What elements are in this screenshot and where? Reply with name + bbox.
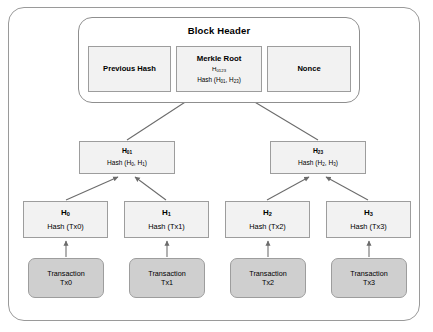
h2-hash-id: H2 <box>263 208 272 218</box>
tx3-label: Transaction <box>350 269 387 278</box>
nonce-label: Nonce <box>297 64 320 73</box>
h0-formula: Hash (Tx0) <box>47 222 84 231</box>
h23-formula: Hash (H2, H3) <box>298 159 338 168</box>
tx2-id: Tx2 <box>262 278 274 287</box>
merkle-root-hash-id: H0123 <box>212 65 226 74</box>
h01-formula: Hash (H0, H1) <box>107 159 147 168</box>
hash-node-h1: H1 Hash (Tx1) <box>124 201 209 238</box>
h2-formula: Hash (Tx2) <box>249 222 286 231</box>
hash-node-h0: H0 Hash (Tx0) <box>23 201 108 238</box>
nonce-box: Nonce <box>267 46 351 92</box>
hash-node-h01: H01 Hash (H0, H1) <box>79 141 175 174</box>
h3-hash-id: H3 <box>364 208 373 218</box>
h1-hash-id: H1 <box>162 208 171 218</box>
hash-node-h2: H2 Hash (Tx2) <box>225 201 310 238</box>
tx3-id: Tx3 <box>363 278 375 287</box>
h1-formula: Hash (Tx1) <box>148 222 185 231</box>
previous-hash-box: Previous Hash <box>88 46 171 92</box>
h0-hash-id: H0 <box>61 208 70 218</box>
h23-hash-id: H23 <box>313 147 323 156</box>
block-header-title: Block Header <box>79 25 359 36</box>
tx0-label: Transaction <box>47 269 84 278</box>
merkle-root-label: Merkle Root <box>197 54 242 64</box>
diagram-canvas: Block Header Previous Hash Merkle Root H… <box>0 0 433 332</box>
h01-hash-id: H01 <box>122 147 132 156</box>
tx0-id: Tx0 <box>60 278 72 287</box>
transaction-box-tx0: Transaction Tx0 <box>28 258 104 298</box>
previous-hash-label: Previous Hash <box>103 64 156 73</box>
merkle-root-formula: Hash (H01, H23) <box>197 76 241 85</box>
tx2-label: Transaction <box>249 269 286 278</box>
tx1-id: Tx1 <box>161 278 173 287</box>
transaction-box-tx3: Transaction Tx3 <box>331 258 407 298</box>
transaction-box-tx1: Transaction Tx1 <box>129 258 205 298</box>
h3-formula: Hash (Tx3) <box>350 222 387 231</box>
merkle-root-box: Merkle Root H0123 Hash (H01, H23) <box>176 46 262 92</box>
tx1-label: Transaction <box>148 269 185 278</box>
transaction-box-tx2: Transaction Tx2 <box>230 258 306 298</box>
hash-node-h23: H23 Hash (H2, H3) <box>270 141 366 174</box>
hash-node-h3: H3 Hash (Tx3) <box>326 201 411 238</box>
